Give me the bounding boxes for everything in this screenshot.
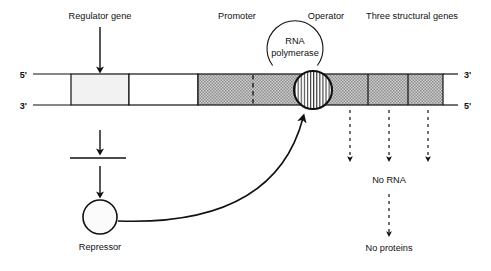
label-rna-polymerase-line2: polymerase — [271, 48, 319, 58]
label-right-top-prime: 3' — [464, 70, 471, 80]
label-no-proteins: No proteins — [366, 243, 413, 253]
label-left-top-prime: 5' — [20, 70, 27, 80]
repressor-circle — [83, 200, 117, 234]
label-right-bottom-prime: 5' — [464, 101, 471, 111]
operon-diagram: Regulator gene Promoter Operator Three s… — [0, 0, 491, 271]
label-rna-polymerase-line1: RNA — [285, 36, 305, 46]
label-left-bottom-prime: 3' — [20, 101, 27, 111]
label-promoter: Promoter — [218, 11, 256, 21]
regulator-gene-box — [71, 74, 129, 105]
dna-strand — [33, 74, 458, 105]
operator-circle — [294, 71, 332, 109]
repressor-binding-curve — [118, 118, 303, 221]
label-repressor: Repressor — [79, 242, 121, 252]
spacer-region — [129, 74, 198, 105]
label-regulator-gene: Regulator gene — [69, 11, 132, 21]
label-operator: Operator — [308, 11, 344, 21]
label-no-rna: No RNA — [372, 175, 407, 185]
label-structural-genes: Three structural genes — [366, 11, 458, 21]
